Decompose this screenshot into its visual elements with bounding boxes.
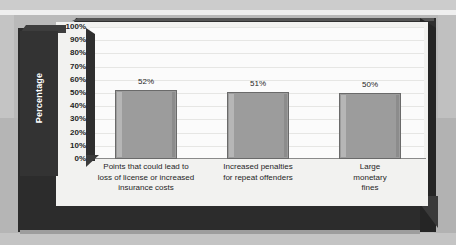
bar-group[interactable]: 51% <box>227 27 289 159</box>
x-axis-category-label: Points that could lead toloss of license… <box>93 162 199 194</box>
bar[interactable] <box>339 93 401 159</box>
bar-highlight-edge <box>229 94 234 157</box>
y-axis-tick-label: 100% <box>44 23 86 31</box>
category-label-line: Large <box>317 162 423 173</box>
page-left-lower-margin <box>0 118 20 233</box>
category-label-line: monetary <box>317 173 423 184</box>
chart-screenshot: Percentage 100%90%80%70%60%50%40%30%20%1… <box>0 0 456 245</box>
bar[interactable] <box>227 92 289 159</box>
y-axis-tick-label: 90% <box>44 36 86 44</box>
y-axis-tick-labels: 100%90%80%70%60%50%40%30%20%10%0% <box>44 27 86 160</box>
category-label-line: Increased penalties <box>205 162 311 173</box>
bar-shadow-edge <box>396 95 399 157</box>
bar-highlight-edge <box>117 92 122 157</box>
bar-value-label: 51% <box>227 79 289 88</box>
bar-value-label: 50% <box>339 80 401 89</box>
x-axis-category-label: Largemonetaryfines <box>317 162 423 194</box>
chart-frame-bottom-shadow <box>20 230 420 234</box>
bar-group[interactable]: 52% <box>115 27 177 159</box>
bar-value-label: 52% <box>115 77 177 86</box>
bar-shadow-edge <box>172 92 175 157</box>
y-axis-tick-label: 40% <box>44 102 86 110</box>
y-axis-tick-label: 20% <box>44 129 86 137</box>
x-axis-category-label: Increased penaltiesfor repeat offenders <box>205 162 311 183</box>
bar[interactable] <box>115 90 177 159</box>
bar-highlight-edge <box>341 95 346 157</box>
y-axis-tick-label: 0% <box>44 155 86 163</box>
bar-shadow-edge <box>284 94 287 157</box>
category-label-line: loss of license or increased <box>93 173 199 184</box>
category-label-line: fines <box>317 183 423 194</box>
y-axis-tick-label: 70% <box>44 63 86 71</box>
page-top-highlight-band <box>0 10 456 15</box>
category-label-line: for repeat offenders <box>205 173 311 184</box>
x-axis-category-labels: Points that could lead toloss of license… <box>90 162 426 206</box>
page-top-band <box>0 0 456 10</box>
bar-group[interactable]: 50% <box>339 27 401 159</box>
y-axis-title: Percentage <box>34 35 44 161</box>
y-axis-tick-label: 80% <box>44 49 86 57</box>
y-axis-tick-label: 60% <box>44 76 86 84</box>
category-label-line: insurance costs <box>93 183 199 194</box>
category-label-line: Points that could lead to <box>93 162 199 173</box>
y-axis-tick-label: 30% <box>44 115 86 123</box>
chart-frame-top-highlight <box>72 18 434 21</box>
page-bottom-margin <box>0 233 456 245</box>
bar-series: 52%51%50% <box>90 27 426 159</box>
y-axis-tick-label: 10% <box>44 142 86 150</box>
y-axis-tick-label: 50% <box>44 89 86 97</box>
